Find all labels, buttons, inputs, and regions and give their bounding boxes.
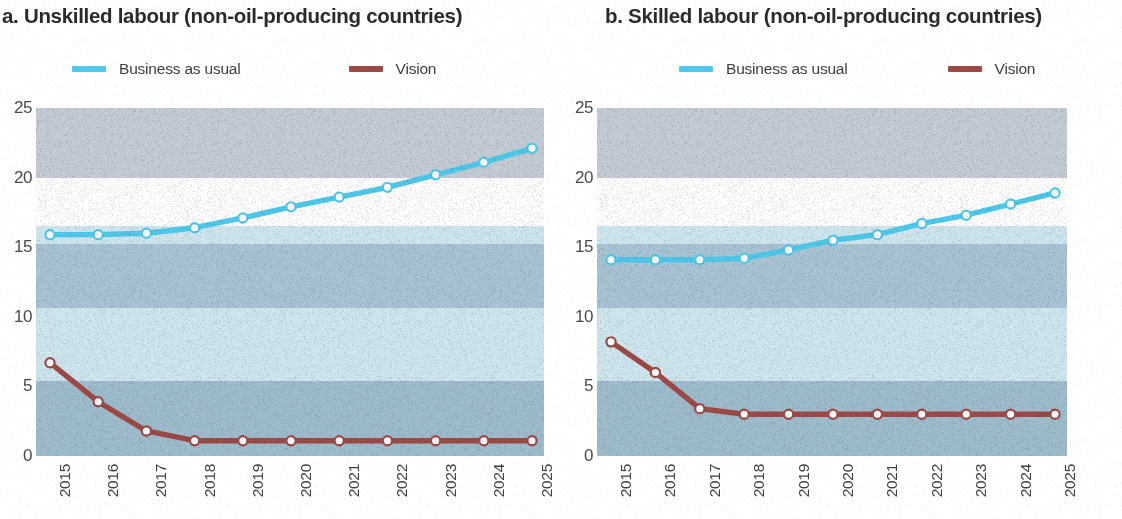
- panel-a-y-axis: 0510152025: [0, 108, 32, 456]
- data-point-marker: [431, 436, 440, 445]
- data-point-marker: [651, 368, 660, 377]
- x-axis-tick-label: 2020: [297, 464, 315, 497]
- panel-a: a. Unskilled labour (non-oil-producing c…: [0, 0, 561, 519]
- y-axis-tick-label: 0: [559, 446, 593, 466]
- data-point-marker: [190, 436, 199, 445]
- panel-series-layer: [597, 108, 1067, 456]
- x-axis-tick-label: 2019: [249, 464, 267, 497]
- panel-b: b. Skilled labour (non-oil-producing cou…: [561, 0, 1122, 519]
- data-point-marker: [45, 230, 54, 239]
- x-axis-tick-label: 2022: [393, 464, 411, 497]
- x-axis-tick-label: 2015: [56, 464, 74, 497]
- legend-swatch-vision: [948, 66, 982, 72]
- x-axis-tick-label: 2024: [1017, 464, 1035, 497]
- x-axis-tick-label: 2018: [750, 464, 768, 497]
- x-axis-tick-label: 2024: [490, 464, 508, 497]
- legend-swatch-business-as-usual: [679, 66, 713, 72]
- data-point-marker: [190, 223, 199, 232]
- y-axis-tick-label: 10: [559, 307, 593, 327]
- data-point-marker: [94, 397, 103, 406]
- legend-swatch-business-as-usual: [72, 66, 106, 72]
- panel-b-x-axis: 2015201620172018201920202021202220232024…: [597, 462, 1067, 518]
- y-axis-tick-label: 20: [0, 168, 32, 188]
- data-point-marker: [740, 254, 749, 263]
- legend-item-business-as-usual: Business as usual: [679, 60, 848, 78]
- x-axis-tick-label: 2023: [442, 464, 460, 497]
- legend-item-vision: Vision: [948, 60, 1036, 78]
- legend-label-vision: Vision: [995, 60, 1036, 78]
- x-axis-tick-label: 2025: [538, 464, 556, 497]
- x-axis-tick-label: 2020: [839, 464, 857, 497]
- panel-a-series-layer: [36, 108, 544, 456]
- data-point-marker: [962, 211, 971, 220]
- data-point-marker: [695, 404, 704, 413]
- x-axis-tick-label: 2016: [661, 464, 679, 497]
- data-point-marker: [828, 236, 837, 245]
- x-axis-tick-label: 2018: [201, 464, 219, 497]
- x-axis-tick-label: 2016: [104, 464, 122, 497]
- series-line: [50, 363, 532, 441]
- data-point-marker: [962, 410, 971, 419]
- data-point-marker: [917, 219, 926, 228]
- data-point-marker: [828, 410, 837, 419]
- legend-label-business-as-usual: Business as usual: [726, 60, 848, 78]
- data-point-marker: [431, 170, 440, 179]
- x-axis-tick-label: 2022: [928, 464, 946, 497]
- series-line: [611, 342, 1055, 414]
- data-point-marker: [606, 255, 615, 264]
- panel-a-legend: Business as usual Vision: [72, 58, 436, 80]
- legend-item-vision: Vision: [349, 60, 437, 78]
- data-point-marker: [873, 410, 882, 419]
- data-point-marker: [695, 255, 704, 264]
- data-point-marker: [142, 426, 151, 435]
- y-axis-tick-label: 5: [559, 376, 593, 396]
- data-point-marker: [784, 245, 793, 254]
- data-point-marker: [527, 144, 536, 153]
- data-point-marker: [335, 192, 344, 201]
- x-axis-tick-label: 2021: [345, 464, 363, 497]
- x-axis-tick-label: 2023: [972, 464, 990, 497]
- data-point-marker: [784, 410, 793, 419]
- panel-b-plot-area: [597, 108, 1067, 456]
- legend-item-business-as-usual: Business as usual: [72, 60, 241, 78]
- data-point-marker: [1050, 410, 1059, 419]
- y-axis-tick-label: 20: [559, 168, 593, 188]
- legend-label-vision: Vision: [396, 60, 437, 78]
- y-axis-tick-label: 15: [559, 237, 593, 257]
- data-point-marker: [94, 230, 103, 239]
- x-axis-tick-label: 2017: [706, 464, 724, 497]
- panel-b-title: b. Skilled labour (non-oil-producing cou…: [605, 4, 1122, 28]
- data-point-marker: [238, 436, 247, 445]
- series-line: [611, 193, 1055, 260]
- panel-a-title: a. Unskilled labour (non-oil-producing c…: [2, 4, 563, 28]
- series-line: [50, 148, 532, 234]
- y-axis-tick-label: 0: [0, 446, 32, 466]
- y-axis-tick-label: 25: [559, 98, 593, 118]
- data-point-marker: [1006, 199, 1015, 208]
- panel-b-y-axis: 0510152025: [561, 108, 593, 456]
- data-point-marker: [527, 436, 536, 445]
- x-axis-tick-label: 2017: [152, 464, 170, 497]
- data-point-marker: [606, 337, 615, 346]
- data-point-marker: [45, 358, 54, 367]
- data-point-marker: [1006, 410, 1015, 419]
- data-point-marker: [651, 255, 660, 264]
- data-point-marker: [238, 213, 247, 222]
- data-point-marker: [286, 436, 295, 445]
- figure-root: a. Unskilled labour (non-oil-producing c…: [0, 0, 1122, 519]
- data-point-marker: [479, 436, 488, 445]
- x-axis-tick-label: 2015: [617, 464, 635, 497]
- panel-a-x-axis: 2015201620172018201920202021202220232024…: [36, 462, 544, 518]
- y-axis-tick-label: 15: [0, 237, 32, 257]
- data-point-marker: [873, 230, 882, 239]
- x-axis-tick-label: 2019: [795, 464, 813, 497]
- panel-a-plot-area: [36, 108, 544, 456]
- data-point-marker: [740, 410, 749, 419]
- data-point-marker: [917, 410, 926, 419]
- legend-label-business-as-usual: Business as usual: [119, 60, 241, 78]
- y-axis-tick-label: 25: [0, 98, 32, 118]
- data-point-marker: [142, 229, 151, 238]
- x-axis-tick-label: 2021: [883, 464, 901, 497]
- data-point-marker: [383, 183, 392, 192]
- y-axis-tick-label: 10: [0, 307, 32, 327]
